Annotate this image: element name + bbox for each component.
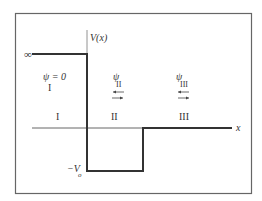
region-2-right-arrow-icon — [112, 97, 123, 100]
region-3-label: III — [179, 111, 189, 122]
region-1-label: I — [56, 111, 59, 122]
region-3-psi-subscript: III — [180, 80, 188, 89]
diagram-frame — [16, 14, 252, 194]
region-2-psi-subscript: II — [116, 80, 122, 89]
x-axis-label: x — [235, 122, 241, 133]
well-depth-subscript: o — [78, 171, 82, 179]
region-3-left-arrow-icon — [178, 91, 189, 94]
region-1-upper-numeral: I — [48, 82, 51, 93]
region-1-psi-label: ψ = 0 — [43, 71, 66, 82]
potential-well-diagram: ∞ V(x) x ψ = 0 I I ψ II II ψ III III −V … — [0, 0, 262, 201]
region-3-right-arrow-icon — [178, 97, 189, 100]
region-2-label: II — [111, 111, 118, 122]
infinity-label: ∞ — [24, 48, 32, 60]
v-axis-label: V(x) — [90, 32, 108, 44]
region-2-left-arrow-icon — [113, 91, 124, 94]
